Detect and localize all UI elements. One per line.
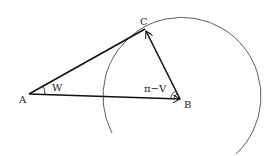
vector-ab: [29, 94, 180, 99]
angle-label-w: W: [52, 82, 63, 93]
angle-arc-a: [43, 86, 45, 95]
point-label-b: B: [184, 99, 191, 110]
segment-ac: [29, 29, 145, 94]
angle-label-pi-minus-v: π−V: [144, 83, 167, 94]
circle-arc: [103, 17, 261, 154]
point-label-a: A: [18, 94, 27, 105]
vector-triangle-diagram: A B C W π−V: [0, 0, 268, 156]
point-label-c: C: [140, 16, 148, 27]
